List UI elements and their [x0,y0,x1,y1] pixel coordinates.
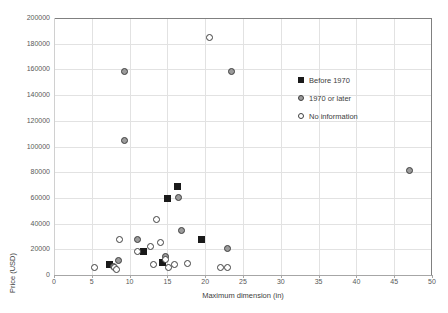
y-tick-label: 160000 [0,65,50,72]
legend-item-no-information: No information [296,107,404,125]
data-point [121,68,128,75]
y-tick-label: 80000 [0,168,50,175]
x-tick-label: 15 [152,278,182,285]
x-axis-title: Maximum dimension (in) [54,291,432,300]
y-axis-title-holder: Price (USD) [14,145,15,146]
x-tick-label: 40 [341,278,371,285]
legend-marker-open-circle-icon [298,113,304,119]
y-tick-label: 100000 [0,143,50,150]
data-point [153,216,160,223]
gridline-vertical [205,18,206,275]
data-point [121,137,128,144]
y-tick-label: 140000 [0,91,50,98]
scatter-chart: 0200004000060000800001000001200001400001… [0,0,448,313]
gridline-vertical [130,18,131,275]
x-tick-label: 35 [304,278,334,285]
y-tick-label: 180000 [0,40,50,47]
data-point [116,236,123,243]
y-axis-line [54,18,55,275]
legend-item-1970-or-later: 1970 or later [296,89,404,107]
legend-item-before-1970: Before 1970 [296,71,404,89]
gridline-vertical [356,18,357,275]
data-point [147,243,154,250]
data-point [184,260,191,267]
data-point [91,264,98,271]
data-point [224,264,231,271]
data-point [134,236,141,243]
data-point [174,183,181,190]
x-tick-label: 20 [190,278,220,285]
data-point [150,261,157,268]
data-point [198,236,205,243]
chart-legend: Before 1970 1970 or later No information [296,71,404,125]
data-point [113,266,120,273]
gridline-vertical [243,18,244,275]
gridline-vertical [394,18,395,275]
x-tick-label: 5 [77,278,107,285]
legend-label: No information [309,112,358,121]
x-tick-label: 25 [228,278,258,285]
data-point [164,195,171,202]
data-point [157,239,164,246]
gridline-vertical [281,18,282,275]
data-point [140,248,147,255]
legend-marker-square-icon [298,77,304,83]
gridline-vertical [319,18,320,275]
data-point [171,261,178,268]
plot-top-border [54,18,432,19]
x-tick-label: 10 [115,278,145,285]
legend-label: Before 1970 [309,76,350,85]
legend-marker-gray-circle-icon [298,95,304,101]
x-tick-label: 50 [417,278,447,285]
legend-label: 1970 or later [309,94,351,103]
data-point [206,34,213,41]
data-point [178,227,185,234]
data-point [115,257,122,264]
data-point [134,248,141,255]
data-point [228,68,235,75]
data-point [224,245,231,252]
plot-right-border [431,18,432,275]
data-point [175,194,182,201]
gridline-vertical [167,18,168,275]
plot-area: Before 1970 1970 or later No information [54,18,432,275]
y-tick-label: 120000 [0,117,50,124]
y-axis-title: Price (USD) [8,213,17,313]
y-tick-label: 200000 [0,14,50,21]
x-tick-label: 45 [379,278,409,285]
y-tick-label: 60000 [0,194,50,201]
data-point [217,264,224,271]
gridline-vertical [92,18,93,275]
x-tick-label: 30 [266,278,296,285]
x-tick-label: 0 [39,278,69,285]
data-point [406,167,413,174]
